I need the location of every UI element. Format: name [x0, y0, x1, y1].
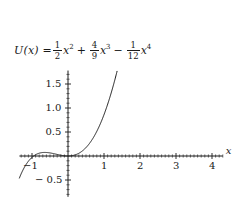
x-tick-label: 1	[101, 161, 107, 171]
y-tick-label: 1.0	[45, 103, 61, 113]
x-tick-label: −1	[23, 161, 38, 171]
potential-energy-figure: U(x) = 1 2 x2 + 4 9 x3 − 1 12	[0, 0, 234, 206]
x-axis-label: x	[226, 146, 232, 156]
x-tick-label: 4	[209, 161, 215, 171]
y-tick-label: 0.5	[45, 127, 61, 137]
x-tick-label: 3	[173, 161, 179, 171]
y-tick-label: 1.5	[45, 79, 61, 89]
y-tick-label: − 0.5	[35, 175, 62, 185]
x-tick-label: 2	[137, 161, 143, 171]
